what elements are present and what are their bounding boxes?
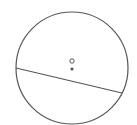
point-filled [70, 67, 73, 70]
geometry-diagram [0, 0, 137, 125]
chord-line [16, 68, 122, 93]
center-point-open [70, 59, 74, 63]
